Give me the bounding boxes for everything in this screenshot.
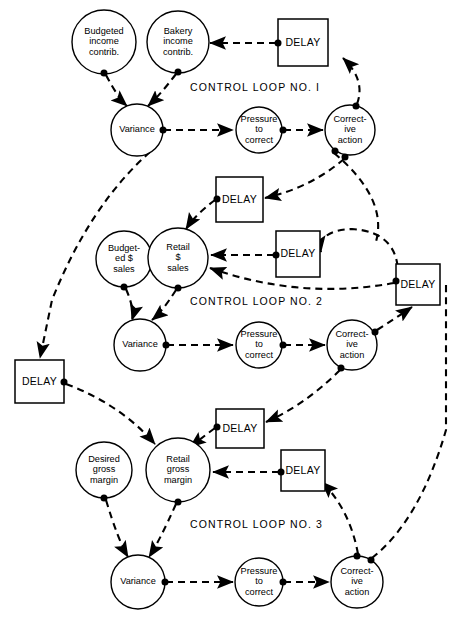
node-retail-dollar-sales-label-line-1: $ [175, 252, 180, 262]
node-corrective-action-2-label-line-0: Correct- [335, 329, 368, 339]
dot-budgeted-sales-out [121, 284, 128, 291]
dot-delay5-out [61, 379, 68, 386]
edge-delay4-curve-to-delay3 [321, 229, 398, 278]
dot-pressure2-out [280, 342, 287, 349]
node-desired-gross-margin-label-line-0: Desired [88, 454, 120, 464]
edge-corrective2-to-delay4 [377, 307, 412, 330]
node-corrective-action-2-label-line-2: action [340, 350, 365, 360]
edge-corrective2-to-delay6 [266, 370, 340, 422]
node-pressure-to-correct-1-label-line-0: Pressure [241, 114, 278, 124]
node-retail-gross-margin-label-line-1: gross [167, 464, 190, 474]
edge-retail-sales-to-variance2 [152, 290, 176, 320]
dot-delay4-out [393, 278, 400, 285]
node-retail-gross-margin-label-line-0: Retail [166, 454, 190, 464]
delay-6: DELAY [216, 409, 264, 448]
delay-3: DELAY [276, 231, 320, 277]
node-corrective-action-3-label-line-0: Correct- [340, 566, 373, 576]
delay-7: DELAY [281, 450, 325, 491]
edge-retail-margin-to-variance3 [149, 504, 176, 557]
dot-corrective2-lower [338, 365, 345, 372]
dot-corrective3-top [354, 553, 361, 560]
node-corrective-action-3-label-line-1: ive [351, 576, 363, 586]
delay-4: DELAY [396, 264, 440, 305]
node-budgeted-income-contrib: Budgetedincomecontrib. [72, 10, 136, 74]
node-retail-dollar-sales-label-line-0: Retail [166, 242, 190, 252]
delay-2: DELAY [216, 177, 263, 222]
node-corrective-action-3: Correct-iveaction [331, 556, 383, 608]
delay-4-label: DELAY [400, 278, 435, 290]
node-retail-dollar-sales: Retail$sales [148, 228, 208, 288]
node-budgeted-income-contrib-label-line-1: income [89, 36, 119, 46]
node-pressure-to-correct-1-label-line-1: to [255, 124, 263, 134]
delay-5-label: DELAY [22, 375, 57, 387]
control-loop-diagram: DELAYDELAYDELAYDELAYDELAYDELAYDELAY Budg… [0, 0, 462, 623]
node-pressure-to-correct-2-label-line-1: to [255, 339, 263, 349]
loop-label-loop3: CONTROL LOOP NO. 3 [190, 518, 323, 530]
dot-corrective1-top [353, 103, 360, 110]
node-variance-2: Variance [114, 319, 166, 371]
loop-label-loop2: CONTROL LOOP NO. 2 [190, 295, 323, 307]
edge-delay5-to-retail-margin [66, 384, 155, 444]
dot-corrective3-right [368, 557, 375, 564]
dot-desired-margin-out [101, 495, 108, 502]
node-desired-gross-margin-label-line-1: gross [93, 464, 116, 474]
dot-retail-margin-out [175, 499, 182, 506]
node-budgeted-dollar-sales-label-line-1: ed $ [115, 253, 133, 263]
delay-1-label: DELAY [285, 36, 320, 48]
edge-corrective1-to-delay1 [343, 58, 360, 104]
node-budgeted-dollar-sales-label-line-0: Budget- [108, 243, 140, 253]
dot-retail-sales-out [175, 285, 182, 292]
node-retail-gross-margin: Retailgrossmargin [146, 438, 210, 502]
node-corrective-action-3-label-line-2: action [345, 587, 370, 597]
edge-corrective3-to-delay7 [322, 482, 358, 554]
node-corrective-action-1: Correct-iveaction [325, 105, 375, 155]
dot-delay2-in [214, 196, 221, 203]
edge-corrective1-to-retail-sales [334, 153, 378, 245]
dot-variance3-out [162, 579, 169, 586]
node-retail-gross-margin-label-line-2: margin [164, 475, 192, 485]
node-bakery-income-contrib-label-line-2: contrib. [163, 47, 193, 57]
node-pressure-to-correct-2-label-line-2: correct [245, 350, 274, 360]
dot-variance2-out [163, 342, 170, 349]
edge-desired-margin-to-variance3 [106, 500, 128, 557]
node-pressure-to-correct-2: Pressuretocorrect [236, 322, 282, 368]
delay-7-label: DELAY [285, 464, 320, 476]
node-bakery-income-contrib-label-line-0: Bakery [164, 26, 193, 36]
node-variance-1-label-line-0: Variance [119, 124, 155, 134]
node-desired-gross-margin-label-line-2: margin [90, 475, 118, 485]
node-variance-1: Variance [111, 104, 163, 156]
node-corrective-action-1-label-line-1: ive [344, 124, 356, 134]
edge-budgeted-sales-to-variance2 [126, 289, 133, 320]
node-pressure-to-correct-2-label-line-0: Pressure [241, 329, 278, 339]
dot-corrective1-lower-b [342, 154, 349, 161]
node-corrective-action-2-label-line-1: ive [346, 339, 358, 349]
dot-delay6-out [214, 424, 221, 431]
node-bakery-income-contrib: Bakeryincomecontrib. [147, 11, 209, 73]
node-budgeted-income-contrib-label-line-2: contrib. [89, 47, 119, 57]
edge-delay2-to-retail-sales [186, 200, 215, 229]
node-pressure-to-correct-3-label-line-0: Pressure [241, 566, 278, 576]
dot-delay3-out [273, 252, 280, 259]
delay-3-label: DELAY [280, 247, 315, 259]
dot-budgeted-income-out [101, 70, 108, 77]
dot-variance1-out [160, 127, 167, 134]
node-corrective-action-1-label-line-2: action [338, 135, 363, 145]
edge-bakery-income-to-variance [148, 74, 176, 106]
dot-pressure1-out [280, 127, 287, 134]
delay-5: DELAY [15, 360, 64, 403]
node-pressure-to-correct-3: Pressuretocorrect [235, 558, 283, 606]
node-budgeted-dollar-sales: Budget-ed $sales [96, 231, 152, 287]
node-variance-3-label-line-0: Variance [120, 576, 156, 586]
edge-corrective3-to-right-column [372, 290, 446, 558]
node-pressure-to-correct-3-label-line-1: to [255, 576, 263, 586]
edge-budgeted-income-to-variance [106, 75, 127, 106]
node-variance-3: Variance [111, 555, 165, 609]
dot-bakery-income-out [175, 69, 182, 76]
delay-2-label: DELAY [222, 193, 257, 205]
loop-label-loop1: CONTROL LOOP NO. I [190, 81, 320, 93]
dot-delay1-out [275, 40, 282, 47]
node-desired-gross-margin: Desiredgrossmargin [76, 442, 132, 498]
node-variance-2-label-line-0: Variance [122, 339, 158, 349]
node-pressure-to-correct-1-label-line-2: correct [245, 135, 274, 145]
delay-6-label: DELAY [222, 422, 257, 434]
